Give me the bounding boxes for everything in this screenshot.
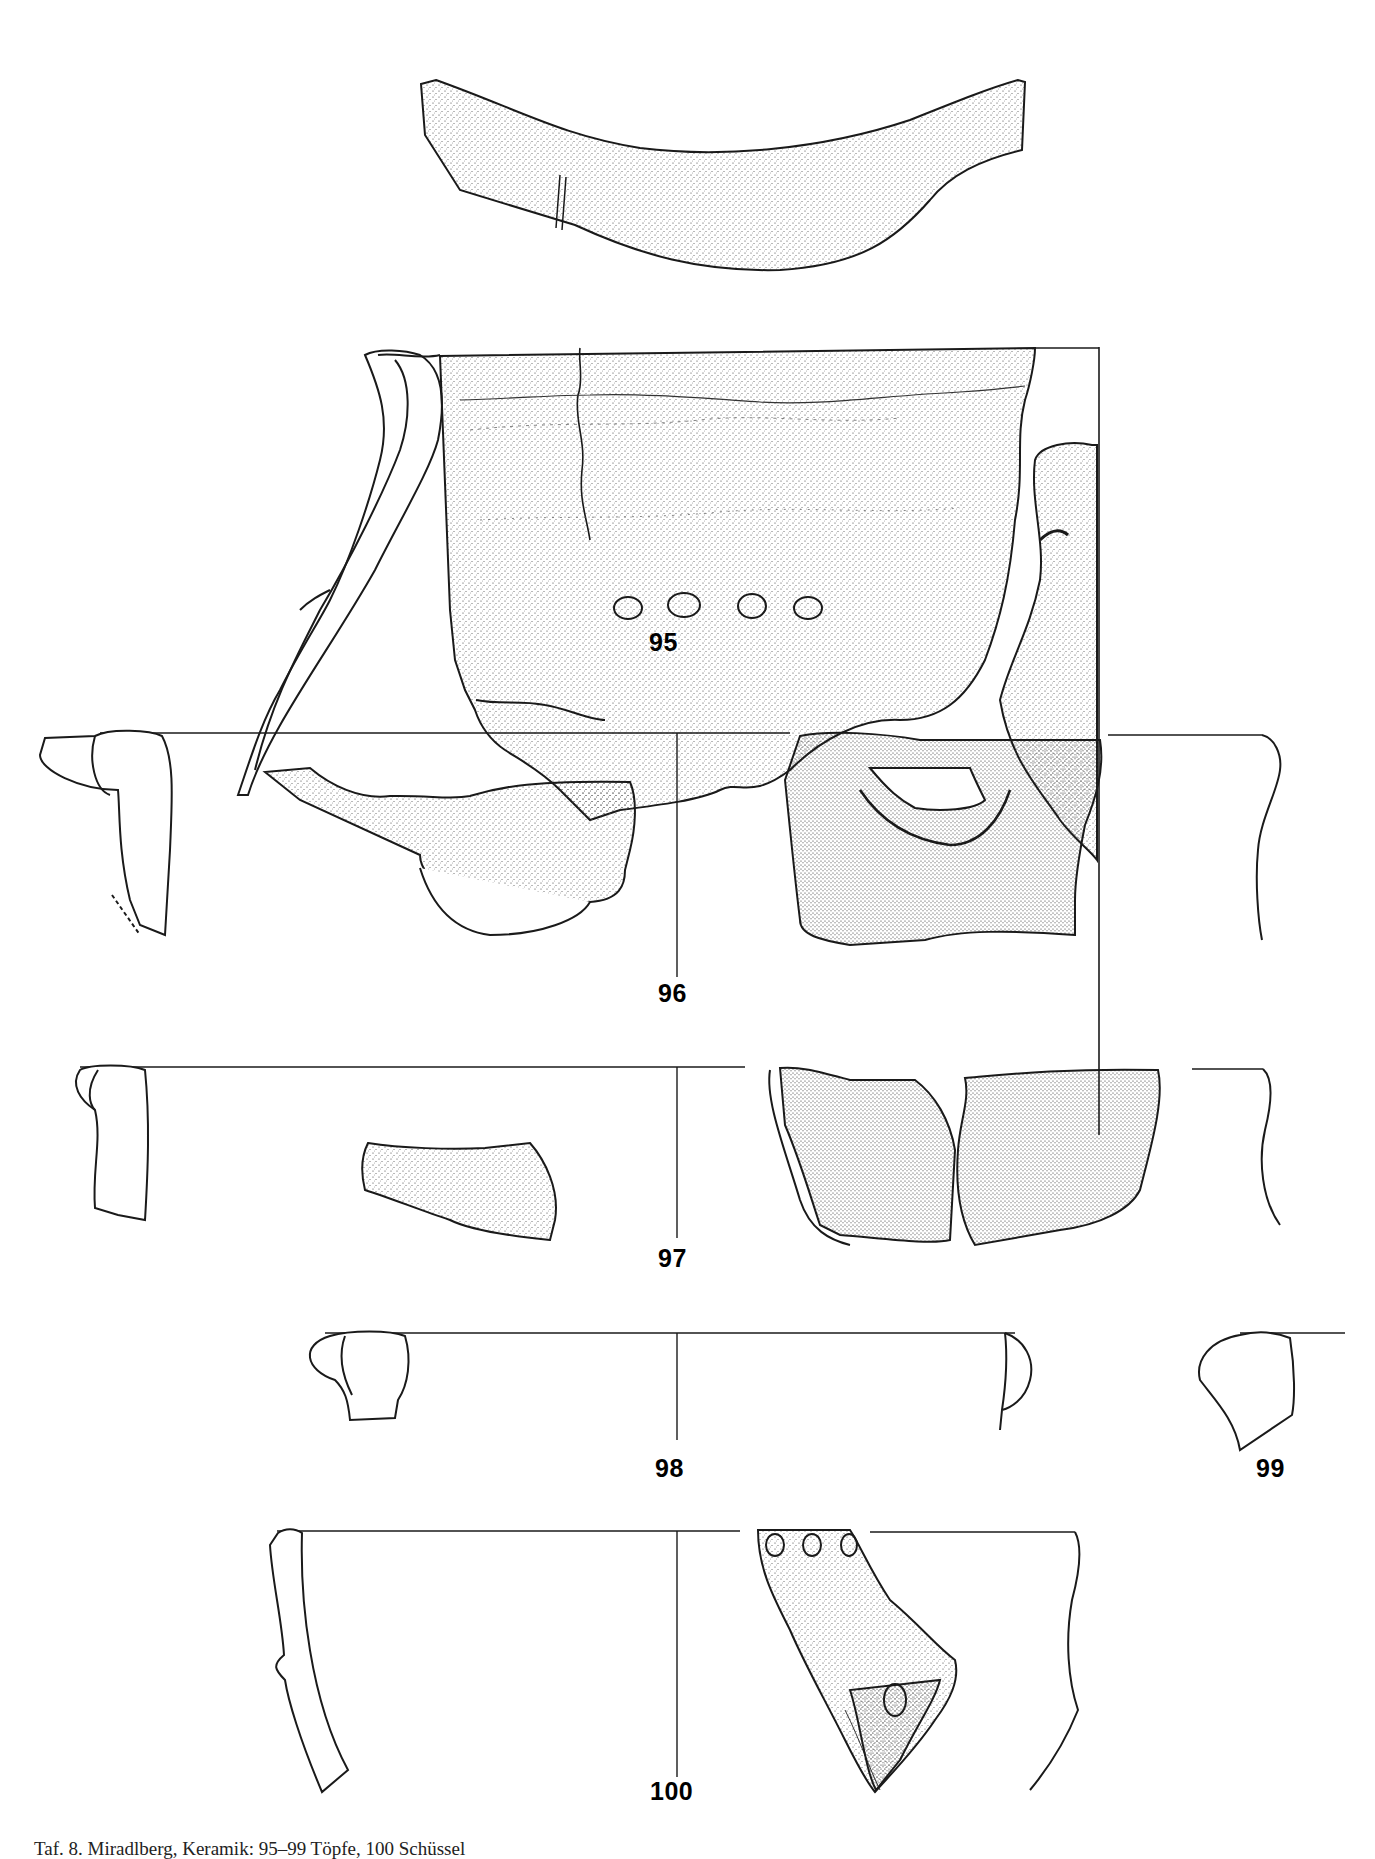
figure-label-95: 95 [649, 628, 678, 656]
figure-label-97: 97 [658, 1244, 687, 1272]
figure-label-100: 100 [650, 1777, 693, 1805]
figure-100-drawing [270, 1529, 1079, 1792]
figure-label-98: 98 [655, 1454, 684, 1482]
figure-98-drawing [310, 1332, 1031, 1441]
figure-95-drawing [238, 80, 1099, 1135]
figure-label-99: 99 [1256, 1454, 1285, 1482]
figure-97-drawing [76, 1066, 1280, 1246]
drawings: 95 96 97 [0, 0, 1375, 1859]
archaeological-plate: 95 96 97 [0, 0, 1375, 1859]
figure-99-drawing [1199, 1332, 1345, 1450]
figure-label-96: 96 [658, 979, 687, 1007]
plate-caption: Taf. 8. Miradlberg, Keramik: 95–99 Töpfe… [34, 1838, 465, 1859]
